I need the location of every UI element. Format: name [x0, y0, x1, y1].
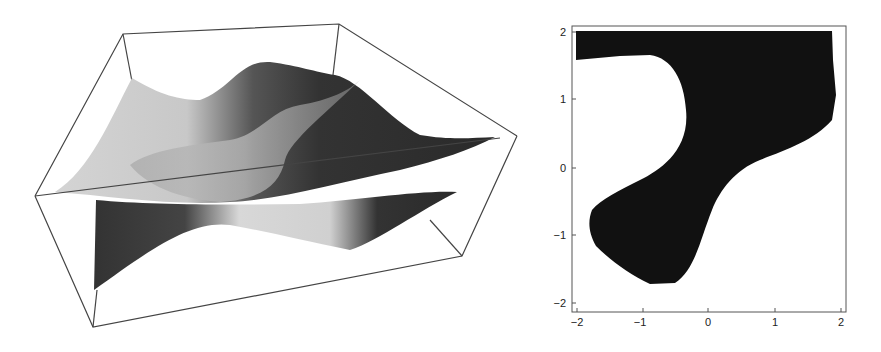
- x-tick-label: −2: [571, 316, 584, 328]
- figure: −2 −1 0 1 2 2 1 0 −1 −2: [0, 0, 881, 352]
- y-tick-label: −2: [553, 297, 566, 309]
- x-axis-ticks: −2 −1 0 1 2: [571, 316, 844, 328]
- y-tick-label: 1: [560, 93, 566, 105]
- x-tick-label: 2: [838, 316, 844, 328]
- y-tick-label: 2: [560, 26, 566, 38]
- x-tick-label: 1: [772, 316, 778, 328]
- region-plot-2d: −2 −1 0 1 2 2 1 0 −1 −2: [553, 26, 846, 328]
- y-tick-label: −1: [553, 229, 566, 241]
- lower-surface: [94, 192, 457, 290]
- y-axis-ticks: 2 1 0 −1 −2: [553, 26, 566, 309]
- x-tick-label: −1: [634, 316, 647, 328]
- surface-plot-3d: [35, 24, 517, 327]
- x-tick-label: 0: [705, 316, 711, 328]
- y-tick-label: 0: [560, 162, 566, 174]
